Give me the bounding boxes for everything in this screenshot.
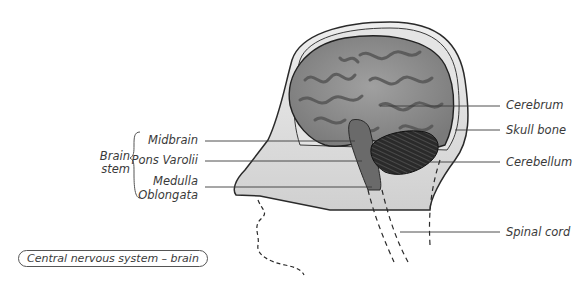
label-oblongata: Oblongata — [130, 189, 198, 202]
label-cerebrum: Cerebrum — [506, 99, 563, 112]
label-spinal-cord: Spinal cord — [506, 226, 570, 239]
label-medulla: Medulla — [130, 175, 198, 188]
group-label-line2: stem — [92, 163, 130, 176]
cerebrum — [289, 36, 453, 149]
diagram-caption: Central nervous system – brain — [18, 250, 208, 267]
label-cerebellum: Cerebellum — [506, 156, 572, 169]
label-midbrain: Midbrain — [130, 134, 198, 147]
label-pons-varolii: Pons Varolii — [130, 154, 198, 167]
brain-stem-group-label: Brain stem — [92, 150, 130, 176]
brain-illustration — [0, 0, 574, 286]
label-skull-bone: Skull bone — [506, 124, 566, 137]
